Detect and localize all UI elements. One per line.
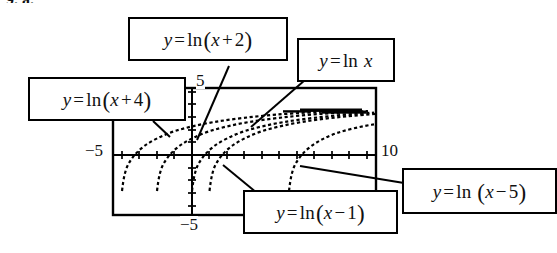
y-axis-label-top: 5 xyxy=(196,72,205,89)
callout-ln-x-plus-4-text: y=ln(x+4) xyxy=(57,90,158,109)
callout-ln-x[interactable]: y=ln x xyxy=(297,38,395,82)
callout-ln-x-minus-5[interactable]: y=ln (x−5) xyxy=(402,168,557,214)
callout-ln-x-plus-2[interactable]: y=ln(x+2) xyxy=(128,17,288,61)
callout-ln-x-minus-5-text: y=ln (x−5) xyxy=(427,182,533,201)
callout-ln-x-plus-2-text: y=ln(x+2) xyxy=(158,30,259,49)
callout-ln-x-text: y=ln x xyxy=(313,51,378,70)
callout-ln-x-minus-1-text: y=ln(x−1) xyxy=(270,203,371,222)
y-axis-label-bottom: −5 xyxy=(180,216,198,233)
x-axis-label-left: −5 xyxy=(85,142,103,159)
x-axis-label-right: 10 xyxy=(381,142,398,159)
callout-ln-x-minus-1[interactable]: y=ln(x−1) xyxy=(243,190,398,234)
figure-canvas: 9. a. xyxy=(0,0,557,253)
callout-ln-x-plus-4[interactable]: y=ln(x+4) xyxy=(28,77,186,121)
